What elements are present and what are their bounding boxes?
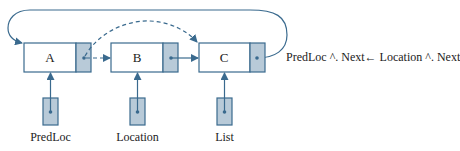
pointer-list-label: List — [215, 130, 234, 144]
pointer-list: List — [215, 73, 234, 144]
pointer-predloc: PredLoc — [30, 73, 71, 144]
pointer-location-label: Location — [116, 130, 159, 144]
pointer-predloc-label: PredLoc — [30, 130, 71, 144]
node-b: B — [111, 43, 178, 72]
pointer-location: Location — [116, 73, 159, 144]
node-c: C — [199, 43, 265, 72]
assignment-statement: PredLoc ^. Next← Location ^. Next — [286, 50, 460, 65]
node-a-label: A — [45, 50, 55, 65]
node-a: A — [24, 43, 91, 72]
node-c-label: C — [220, 50, 229, 65]
node-b-label: B — [133, 50, 142, 65]
